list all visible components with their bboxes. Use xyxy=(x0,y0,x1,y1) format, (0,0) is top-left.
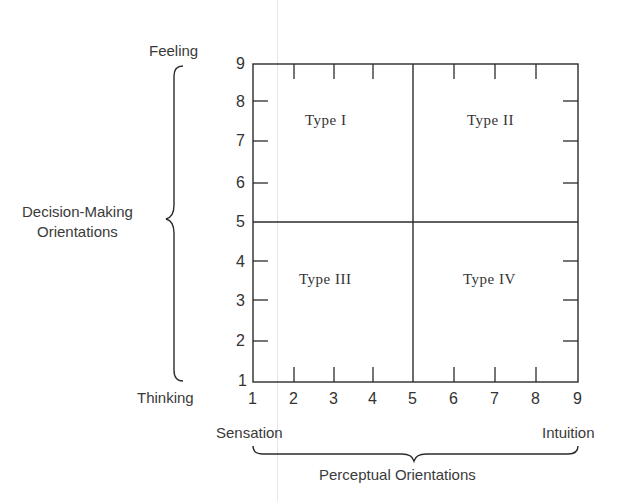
y-tick-7: 7 xyxy=(236,133,245,149)
bottom-ticks xyxy=(294,367,536,382)
y-tick-4: 4 xyxy=(236,254,245,270)
y-tick-6: 6 xyxy=(236,175,245,191)
y-tick-9: 9 xyxy=(236,56,245,72)
y-axis-group-label-line2: Orientations xyxy=(37,224,118,239)
x-tick-2: 2 xyxy=(289,391,298,407)
x-axis-group-label: Perceptual Orientations xyxy=(319,467,476,482)
x-tick-3: 3 xyxy=(329,391,338,407)
left-ticks xyxy=(253,101,268,341)
x-tick-7: 7 xyxy=(490,391,499,407)
x-tick-9: 9 xyxy=(573,391,582,407)
y-tick-3: 3 xyxy=(236,293,245,309)
x-axis-left-label: Sensation xyxy=(216,425,283,440)
x-tick-5: 5 xyxy=(408,391,417,407)
y-axis-top-label: Feeling xyxy=(149,43,198,58)
quadrant-type-ii: Type II xyxy=(467,113,514,128)
y-tick-5: 5 xyxy=(236,214,245,230)
x-tick-1: 1 xyxy=(248,391,257,407)
bottom-brace xyxy=(253,446,578,461)
y-tick-2: 2 xyxy=(236,333,245,349)
left-brace xyxy=(166,66,183,381)
top-ticks xyxy=(294,64,536,79)
y-axis-bottom-label: Thinking xyxy=(137,390,194,405)
right-ticks xyxy=(563,101,578,341)
quadrant-type-iv: Type IV xyxy=(463,272,516,287)
plot-frame xyxy=(253,64,578,382)
x-axis-right-label: Intuition xyxy=(542,425,595,440)
quadrant-type-i: Type I xyxy=(305,113,347,128)
x-tick-4: 4 xyxy=(368,391,377,407)
y-tick-8: 8 xyxy=(236,94,245,110)
y-tick-1: 1 xyxy=(238,373,247,389)
y-axis-group-label-line1: Decision-Making xyxy=(22,204,133,219)
quadrant-type-iii: Type III xyxy=(299,272,352,287)
x-tick-6: 6 xyxy=(449,391,458,407)
x-tick-8: 8 xyxy=(531,391,540,407)
